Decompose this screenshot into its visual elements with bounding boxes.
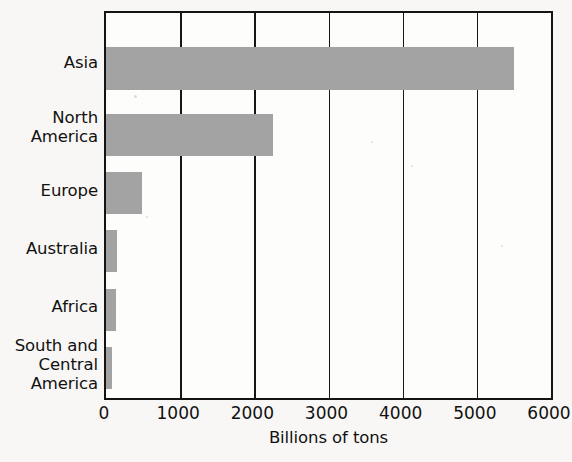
xtick-label-2000: 2000 — [231, 404, 274, 423]
bar-north-america — [106, 114, 273, 156]
xtick-label-3000: 3000 — [305, 404, 348, 423]
scan-speckle — [371, 141, 373, 143]
bars-layer — [106, 13, 551, 398]
xtick-label-4000: 4000 — [379, 404, 422, 423]
category-label-asia: Asia — [0, 53, 98, 72]
bar-south-and-central-america — [106, 347, 112, 389]
bar-africa — [106, 289, 116, 331]
category-label-south-and-central-america: South and Central America — [0, 336, 98, 393]
scan-speckle — [411, 165, 413, 167]
scan-speckle — [501, 245, 503, 247]
category-label-north-america: North America — [0, 108, 98, 146]
xtick-label-5000: 5000 — [453, 404, 496, 423]
scan-speckle — [134, 95, 137, 98]
bar-europe — [106, 172, 142, 214]
bar-chart: Asia North America Europe Australia Afri… — [0, 0, 572, 462]
category-axis-labels: Asia North America Europe Australia Afri… — [0, 11, 98, 400]
xtick-label-1000: 1000 — [157, 404, 200, 423]
plot-area — [104, 11, 553, 400]
x-axis-title: Billions of tons — [104, 428, 553, 447]
bar-australia — [106, 230, 117, 272]
xtick-label-0: 0 — [99, 404, 110, 423]
category-label-africa: Africa — [0, 297, 98, 316]
scan-speckle — [146, 216, 148, 218]
xtick-label-6000: 6000 — [527, 404, 570, 423]
category-label-europe: Europe — [0, 181, 98, 200]
bar-asia — [106, 47, 514, 90]
x-axis-ticks: 0 1000 2000 3000 4000 5000 6000 — [104, 400, 553, 426]
category-label-australia: Australia — [0, 239, 98, 258]
